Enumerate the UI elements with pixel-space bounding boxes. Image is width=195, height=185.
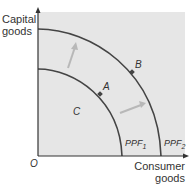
region-c-label: C	[73, 106, 80, 117]
ppf2-label-text: PPF	[164, 138, 182, 148]
point-a-label: A	[103, 81, 110, 92]
ppf1-subscript: 1	[143, 143, 147, 150]
ppf2-label: PPF2	[164, 138, 185, 150]
y-axis-label: Capital goods	[2, 13, 36, 37]
x-axis-arrowhead	[183, 154, 189, 159]
x-axis-label-line2: goods	[134, 172, 185, 184]
y-axis-label-line2: goods	[2, 25, 36, 37]
y-axis-arrowhead	[36, 7, 41, 13]
y-axis-label-line1: Capital	[2, 13, 36, 25]
plot-background	[38, 12, 185, 156]
x-axis-label-line1: Consumer	[134, 160, 185, 172]
origin-label: O	[30, 158, 38, 169]
ppf2-subscript: 2	[182, 143, 186, 150]
x-axis-label: Consumer goods	[134, 160, 185, 184]
ppf1-label-text: PPF	[125, 138, 143, 148]
ppf1-label: PPF1	[125, 138, 146, 150]
point-b-label: B	[135, 59, 142, 70]
